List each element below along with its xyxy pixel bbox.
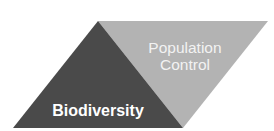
diagram: Population Control Biodiversity: [0, 0, 274, 131]
population-control-label-line2: Control: [160, 56, 210, 73]
biodiversity-label: Biodiversity: [52, 102, 144, 119]
population-control-label-line1: Population: [148, 39, 221, 56]
